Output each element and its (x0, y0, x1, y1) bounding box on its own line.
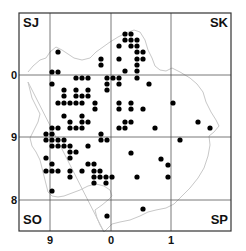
record-dot (79, 168, 84, 173)
record-dot (134, 43, 139, 48)
record-dot (140, 56, 145, 61)
y-axis-label: 9 (11, 131, 17, 143)
record-dot (85, 75, 90, 80)
record-dot (116, 75, 121, 80)
record-dot (158, 156, 163, 161)
record-dot (128, 37, 133, 42)
record-dot (116, 81, 121, 86)
y-axis-label: 8 (11, 194, 17, 206)
record-dot (43, 155, 48, 160)
record-dot (92, 106, 97, 111)
x-axis-label: 1 (168, 234, 174, 246)
record-dot (43, 131, 48, 136)
record-dot (91, 161, 96, 166)
record-dot (122, 119, 127, 124)
record-dot (116, 125, 121, 130)
record-dot (134, 37, 139, 42)
record-dot (116, 106, 121, 111)
record-dot (128, 106, 133, 111)
record-dot (128, 31, 133, 36)
record-dot (104, 87, 109, 92)
record-dot (122, 31, 127, 36)
record-dot (116, 100, 121, 105)
record-dot (165, 174, 170, 179)
record-dot (67, 119, 72, 124)
record-dot (55, 125, 60, 130)
record-dot (85, 161, 90, 166)
record-dot (103, 180, 108, 185)
record-dot (55, 137, 60, 142)
record-dot (49, 168, 54, 173)
grid-square-label: SJ (23, 15, 39, 30)
record-dot (152, 125, 157, 130)
record-dot (61, 143, 66, 148)
record-dot (55, 100, 60, 105)
record-dot (134, 75, 139, 80)
record-dot (55, 49, 60, 54)
record-dot (73, 87, 78, 92)
record-dot (140, 206, 145, 211)
record-dot (67, 168, 72, 173)
record-dot (61, 93, 66, 98)
record-dot (98, 137, 103, 142)
record-dot (109, 174, 114, 179)
record-dot (67, 143, 72, 148)
record-dot (134, 68, 139, 73)
record-dot (49, 161, 54, 166)
record-dot (146, 81, 151, 86)
record-dot (122, 68, 127, 73)
record-dot (67, 100, 72, 105)
record-dot (134, 62, 139, 67)
record-dot (98, 131, 103, 136)
record-dot (67, 174, 72, 179)
record-dot (104, 213, 109, 218)
record-dot (92, 100, 97, 105)
record-dot (140, 49, 145, 54)
record-dot (49, 131, 54, 136)
record-dot (79, 75, 84, 80)
record-dot (49, 81, 54, 86)
record-dot (67, 149, 72, 154)
record-dot (128, 43, 133, 48)
x-axis-label: 9 (47, 234, 53, 246)
record-dot (49, 69, 54, 74)
grid-square-label: SO (23, 212, 42, 227)
record-dot (91, 168, 96, 173)
record-dot (61, 137, 66, 142)
record-dot (85, 143, 90, 148)
y-axis-label: 0 (11, 69, 17, 81)
record-dot (91, 174, 96, 179)
grid-square-label: SK (210, 15, 229, 30)
record-dot (49, 137, 54, 142)
record-dot (79, 113, 84, 118)
record-dot (61, 87, 66, 92)
record-dot (85, 119, 90, 124)
record-dot (79, 100, 84, 105)
record-dot (73, 100, 78, 105)
record-dot (61, 100, 66, 105)
record-dot (128, 119, 133, 124)
record-dot (73, 125, 78, 130)
record-dot (103, 174, 108, 179)
record-dot (79, 93, 84, 98)
record-dot (73, 75, 78, 80)
record-dot (104, 137, 109, 142)
record-dot (67, 125, 72, 130)
record-dot (73, 93, 78, 98)
record-dot (49, 143, 54, 148)
record-dot (104, 81, 109, 86)
record-dot (170, 100, 175, 105)
record-dot (85, 93, 90, 98)
x-axis-label: 0 (108, 234, 114, 246)
record-dot (98, 62, 103, 67)
record-dot (195, 119, 200, 124)
record-dot (134, 49, 139, 54)
record-dot (49, 125, 54, 130)
record-dot (128, 100, 133, 105)
record-dot (134, 56, 139, 61)
record-dot (55, 69, 60, 74)
record-dot (85, 87, 90, 92)
record-dot (43, 137, 48, 142)
record-dot (122, 125, 127, 130)
record-dot (98, 56, 103, 61)
